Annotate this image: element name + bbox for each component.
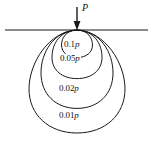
- isobar-label-0-02p-value: 0.02: [59, 83, 74, 93]
- isobar-label-0-05p-value: 0.05: [60, 53, 75, 63]
- isobar-label-0-1p-value: 0.1: [64, 39, 75, 49]
- isobar-label-0-02p-unit: p: [74, 83, 78, 93]
- isobar-label-0-01p-unit: p: [74, 110, 78, 120]
- load-symbol-label: P: [82, 3, 88, 13]
- isobar-label-0-02p: 0.02p: [58, 84, 80, 93]
- isobar-label-0-1p: 0.1p: [63, 40, 80, 49]
- isobar-label-0-05p: 0.05p: [59, 54, 81, 63]
- isobar-label-0-01p: 0.01p: [58, 111, 80, 120]
- pressure-bulb-drawing: [0, 0, 155, 150]
- load-arrow-head: [74, 21, 81, 31]
- isobar-label-0-01p-value: 0.01: [59, 110, 74, 120]
- pressure-bulb-figure: P 0.1p 0.05p 0.02p 0.01p: [0, 0, 155, 150]
- isobar-label-0-1p-unit: p: [75, 39, 79, 49]
- isobar-label-0-05p-unit: p: [75, 53, 79, 63]
